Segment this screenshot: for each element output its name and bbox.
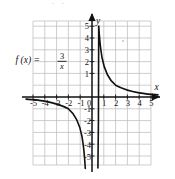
y-tick-label: -3 <box>84 128 91 138</box>
y-tick-label: 1 <box>85 69 89 79</box>
y-tick-label: 3 <box>85 45 89 55</box>
x-tick-label: 3 <box>126 98 130 108</box>
scan-artifact-dot <box>122 40 124 42</box>
x-tick-label: -2 <box>65 98 72 108</box>
curve-branch-negative <box>26 99 85 168</box>
fraction-denominator: x <box>59 61 64 71</box>
graph-canvas: -5 -4 -3 -2 -1 0 1 2 3 4 5 5 4 3 2 1 -1 … <box>0 0 175 179</box>
y-tick-label: 2 <box>85 57 89 67</box>
function-equation-prefix: f (x) = <box>16 55 40 66</box>
y-tick-label: -5 <box>84 152 91 162</box>
y-tick-label: -4 <box>84 140 92 150</box>
fraction-numerator: 3 <box>60 51 64 61</box>
x-tick-label: 4 <box>137 98 142 108</box>
x-tick-label: 2 <box>114 98 118 108</box>
function-graph-figure: -5 -4 -3 -2 -1 0 1 2 3 4 5 5 4 3 2 1 -1 … <box>0 0 175 179</box>
x-tick-label: -5 <box>30 98 37 108</box>
x-tick-label: -3 <box>53 98 60 108</box>
x-tick-label: -4 <box>42 98 50 108</box>
function-equation-label: f (x) = 3 x <box>16 51 67 71</box>
y-tick-label: 5 <box>85 21 89 31</box>
y-tick-label: -1 <box>84 104 91 114</box>
y-axis-label: y <box>95 16 101 26</box>
x-axis-label: x <box>154 82 160 92</box>
y-tick-label: -2 <box>84 116 91 126</box>
y-axis-arrow <box>88 13 95 21</box>
x-tick-label: 5 <box>149 98 153 108</box>
y-tick-labels: 5 4 3 2 1 -1 -2 -3 -4 -5 <box>84 21 92 161</box>
x-tick-label: 1 <box>102 98 106 108</box>
